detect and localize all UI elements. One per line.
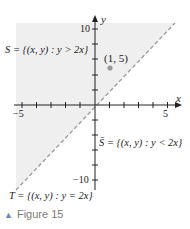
x-min-label: −5 (13, 109, 24, 119)
y-max-label: 10 (80, 24, 90, 34)
figure-caption: ▲Figure 15 (4, 208, 63, 220)
y-axis-label: y (101, 14, 106, 25)
data-point (107, 65, 112, 70)
x-axis-label: x (176, 93, 181, 104)
region-s-bar-label: S̄ = {(x, y) : y < 2x} (99, 138, 182, 149)
caption-text: Figure 15 (17, 208, 63, 220)
caption-triangle-icon: ▲ (4, 210, 13, 220)
region-s-label: S = {(x, y) : y > 2x} (5, 45, 88, 56)
y-axis-arrow-icon (92, 15, 98, 22)
line-t-label: T = {(x, y) : y = 2x} (9, 191, 93, 202)
x-max-label: 5 (163, 109, 168, 119)
y-min-label: −10 (73, 175, 89, 185)
point-label: (1, 5) (104, 53, 128, 64)
